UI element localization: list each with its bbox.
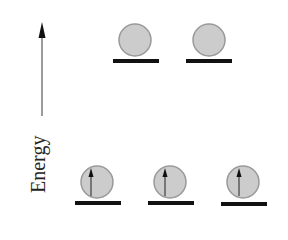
upper-orbital-1 xyxy=(113,24,159,63)
upper-orbital-2 xyxy=(186,24,232,63)
energy-axis-arrow-icon xyxy=(39,22,46,116)
lower-orbital-1 xyxy=(75,166,121,205)
lower-orbital-2 xyxy=(148,166,194,205)
energy-axis-label: Energy xyxy=(27,136,50,193)
lower-orbital-3 xyxy=(221,166,267,206)
